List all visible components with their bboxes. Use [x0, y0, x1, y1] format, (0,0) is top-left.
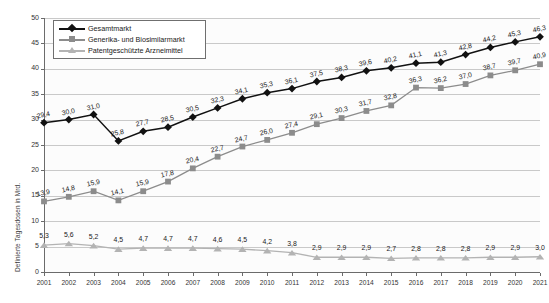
data-label: 5,6: [64, 231, 74, 238]
diamond-marker-icon: [164, 123, 172, 131]
diamond-marker-icon: [487, 44, 495, 52]
square-marker-icon: [537, 61, 543, 67]
data-label: 2,9: [312, 244, 322, 251]
diamond-marker-icon: [239, 95, 247, 103]
data-label: 4,5: [238, 236, 248, 243]
square-marker-icon: [413, 85, 419, 91]
square-marker-icon: [215, 154, 221, 160]
diamond-marker-icon: [437, 58, 445, 66]
diamond-marker-icon: [536, 33, 544, 41]
square-marker-icon: [314, 121, 320, 127]
legend-label: Gesamtmarkt: [88, 24, 131, 33]
diamond-marker-icon: [511, 38, 519, 46]
square-marker-icon: [289, 130, 295, 136]
data-label: 4,6: [213, 236, 223, 243]
data-label: 4,2: [262, 238, 272, 245]
square-marker-icon: [512, 67, 518, 73]
square-marker-icon: [463, 81, 469, 87]
square-marker-icon: [165, 179, 171, 185]
diamond-marker-icon: [338, 74, 346, 82]
data-label: 2,9: [510, 244, 520, 251]
diamond-marker-icon: [65, 116, 73, 124]
triangle-marker-icon: [59, 45, 85, 56]
square-marker-icon: [66, 194, 72, 200]
diamond-marker-icon: [387, 64, 395, 72]
square-marker-icon: [190, 165, 196, 171]
legend-label: Patentgeschützte Arzneimittel: [88, 46, 183, 55]
diamond-marker-icon: [189, 113, 197, 121]
data-label: 4,7: [188, 235, 198, 242]
square-marker-icon: [339, 115, 345, 121]
data-label: 2,9: [362, 244, 372, 251]
square-marker-icon: [240, 144, 246, 150]
data-label: 2,8: [436, 245, 446, 252]
diamond-marker-icon: [412, 59, 420, 67]
data-label: 5,3: [39, 232, 49, 239]
data-label: 2,9: [486, 244, 496, 251]
square-marker-icon: [91, 188, 97, 194]
diamond-marker-icon: [462, 51, 470, 59]
diamond-marker-icon: [263, 89, 271, 97]
diamond-marker-icon: [288, 85, 296, 93]
data-label: 2,8: [461, 245, 471, 252]
data-label: 2,9: [337, 244, 347, 251]
square-marker-icon: [59, 34, 85, 45]
square-marker-icon: [140, 188, 146, 194]
square-marker-icon: [41, 198, 47, 204]
legend-label: Generika- und Biosimilarmarkt: [88, 35, 185, 44]
legend-item[interactable]: Patentgeschützte Arzneimittel: [56, 45, 203, 56]
line-chart: Definierte Tagesdosen in Mrd. 0510152025…: [0, 0, 549, 303]
chart-legend: GesamtmarktGenerika- und Biosimilarmarkt…: [53, 20, 206, 59]
data-label: 5,2: [89, 233, 99, 240]
square-marker-icon: [364, 108, 370, 114]
diamond-marker-icon: [59, 23, 85, 34]
data-label: 4,7: [163, 235, 173, 242]
data-label: 3,8: [287, 240, 297, 247]
square-marker-icon: [264, 137, 270, 143]
diamond-marker-icon: [40, 119, 48, 127]
square-marker-icon: [388, 102, 394, 108]
diamond-marker-icon: [313, 78, 321, 86]
legend-item[interactable]: Generika- und Biosimilarmarkt: [56, 34, 203, 45]
square-marker-icon: [438, 85, 444, 91]
data-label: 3,0: [535, 244, 545, 251]
legend-item[interactable]: Gesamtmarkt: [56, 23, 203, 34]
diamond-marker-icon: [363, 67, 371, 75]
square-marker-icon: [116, 197, 122, 203]
data-label: 4,7: [138, 235, 148, 242]
diamond-marker-icon: [139, 127, 147, 135]
data-label: 2,8: [411, 245, 421, 252]
data-label: 2,7: [386, 245, 396, 252]
diamond-marker-icon: [214, 104, 222, 112]
data-label: 4,5: [114, 236, 124, 243]
square-marker-icon: [488, 73, 494, 79]
